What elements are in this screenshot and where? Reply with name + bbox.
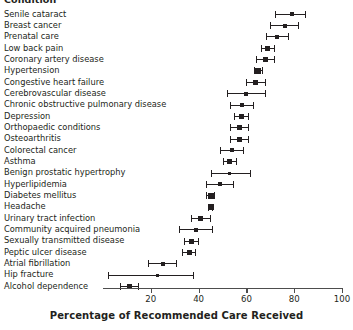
x-tick-label: 100: [334, 294, 350, 304]
interval-cap-right: [265, 79, 266, 86]
interval-cap-left: [266, 33, 267, 40]
data-point-marker: [189, 239, 194, 244]
interval-cap-right: [248, 136, 249, 143]
data-point-marker: [208, 193, 214, 199]
data-point-marker: [240, 103, 244, 107]
data-point-marker: [255, 68, 261, 74]
x-tick: [151, 288, 152, 293]
x-tick-label: 60: [241, 294, 252, 304]
interval-cap-right: [198, 238, 199, 245]
interval-cap-right: [248, 124, 249, 131]
interval-cap-left: [227, 90, 228, 97]
data-point-marker: [283, 24, 287, 28]
data-point-marker: [244, 92, 248, 96]
x-tick-label: 80: [289, 294, 300, 304]
interval-cap-right: [288, 33, 289, 40]
data-point-marker: [230, 148, 234, 152]
interval-cap-right: [233, 181, 234, 188]
interval-cap-right: [212, 226, 213, 233]
data-point-marker: [218, 182, 222, 186]
interval-cap-left: [234, 113, 235, 120]
interval-cap-left: [261, 45, 262, 52]
interval-cap-right: [214, 192, 215, 199]
interval-cap-left: [275, 11, 276, 18]
x-axis-line: [103, 288, 342, 289]
interval-cap-right: [195, 249, 196, 256]
forest-plot-figure: Condition Senile cataractBreast cancerPr…: [0, 0, 353, 330]
interval-cap-left: [230, 136, 231, 143]
data-point-marker: [290, 12, 294, 16]
interval-cap-right: [274, 45, 275, 52]
x-axis-title: Percentage of Recommended Care Received: [0, 310, 353, 321]
interval-cap-left: [246, 79, 247, 86]
interval-cap-right: [265, 90, 266, 97]
interval-cap-right: [253, 102, 254, 109]
interval-cap-left: [220, 147, 221, 154]
interval-line: [108, 275, 194, 276]
data-point-marker: [265, 46, 270, 51]
interval-cap-left: [230, 102, 231, 109]
data-point-marker: [161, 262, 165, 266]
interval-cap-left: [270, 22, 271, 29]
data-point-marker: [263, 57, 268, 62]
interval-cap-right: [298, 22, 299, 29]
interval-cap-right: [274, 56, 275, 63]
interval-cap-right: [243, 147, 244, 154]
interval-cap-left: [179, 226, 180, 233]
interval-cap-left: [191, 215, 192, 222]
interval-cap-left: [230, 124, 231, 131]
interval-cap-left: [211, 170, 212, 177]
x-tick: [246, 288, 247, 293]
data-point-marker: [239, 114, 244, 119]
x-tick-label: 20: [145, 294, 156, 304]
interval-cap-right: [262, 67, 263, 74]
x-tick: [294, 288, 295, 293]
interval-cap-right: [236, 158, 237, 165]
data-point-marker: [194, 228, 198, 232]
interval-cap-left: [108, 272, 109, 279]
data-point-marker: [227, 159, 232, 164]
data-point-marker: [228, 172, 231, 175]
data-point-marker: [237, 137, 242, 142]
interval-cap-right: [210, 215, 211, 222]
x-tick: [342, 288, 343, 293]
interval-cap-left: [148, 260, 149, 267]
interval-cap-left: [184, 238, 185, 245]
data-point-marker: [237, 125, 242, 130]
x-tick: [199, 288, 200, 293]
interval-cap-right: [193, 272, 194, 279]
data-point-marker: [198, 216, 203, 221]
data-point-marker: [208, 204, 214, 210]
interval-cap-right: [176, 260, 177, 267]
interval-cap-left: [223, 158, 224, 165]
interval-cap-left: [206, 181, 207, 188]
data-point-marker: [156, 274, 159, 277]
data-point-marker: [253, 80, 258, 85]
interval-cap-right: [250, 170, 251, 177]
confidence-interval: [108, 269, 194, 280]
interval-cap-right: [305, 11, 306, 18]
x-tick-label: 40: [193, 294, 204, 304]
interval-cap-left: [256, 56, 257, 63]
interval-cap-right: [248, 113, 249, 120]
data-point-marker: [187, 250, 192, 255]
data-point-marker: [275, 35, 279, 39]
interval-cap-left: [182, 249, 183, 256]
plot-area: [0, 0, 353, 286]
